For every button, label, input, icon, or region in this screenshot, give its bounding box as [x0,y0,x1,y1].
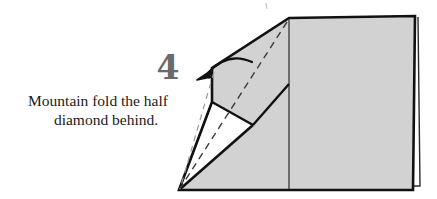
origami-diagram [0,0,437,199]
stray-mark [266,3,267,9]
diagram-page: 4 Mountain fold the half diamond behind. [0,0,437,199]
fold-arrow-head [197,70,212,80]
